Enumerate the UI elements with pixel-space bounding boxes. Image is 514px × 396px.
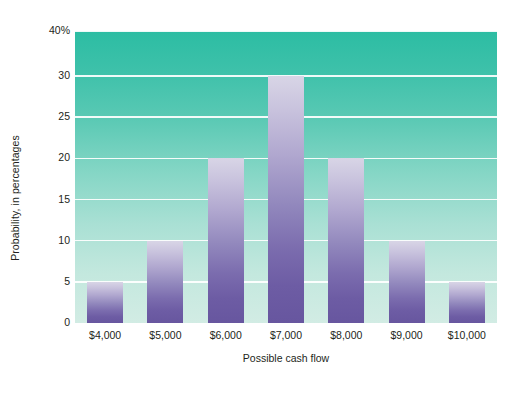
x-axis-tick-label: $10,000 (437, 328, 497, 342)
bar (208, 158, 244, 323)
y-axis-tick-label: 0 (24, 317, 70, 328)
x-axis-title: Possible cash flow (75, 352, 497, 364)
x-axis-tick-label: $6,000 (196, 328, 256, 342)
y-axis-tick-label: 10 (24, 235, 70, 246)
bar (87, 282, 123, 323)
bar (449, 282, 485, 323)
bar (389, 241, 425, 323)
x-axis-tick-labels: $4,000$5,000$6,000$7,000$8,000$9,000$10,… (75, 328, 497, 346)
bar-chart: Probability, in percentages 40%302520151… (0, 0, 514, 396)
gridline (75, 31, 497, 32)
x-axis-tick-label: $5,000 (135, 328, 195, 342)
x-axis-tick-label: $4,000 (75, 328, 135, 342)
bar (147, 241, 183, 323)
x-axis-tick-label: $9,000 (376, 328, 436, 342)
bar (328, 158, 364, 323)
y-axis-tick-label: 15 (24, 194, 70, 205)
plot-area (75, 31, 497, 323)
y-axis-tick-label: 20 (24, 152, 70, 163)
y-axis-tick-label: 25 (24, 111, 70, 122)
y-axis-tick-labels: 40%302520151050 (20, 31, 70, 323)
x-axis-tick-label: $7,000 (256, 328, 316, 342)
y-axis-tick-label: 30 (24, 70, 70, 81)
y-axis-tick-label: 5 (24, 276, 70, 287)
y-axis-tick-label: 40% (24, 25, 70, 36)
bar (268, 76, 304, 323)
x-axis-tick-label: $8,000 (316, 328, 376, 342)
